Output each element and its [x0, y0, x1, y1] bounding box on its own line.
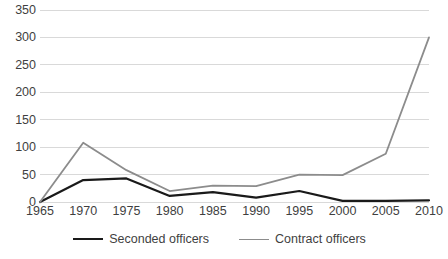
- chart-legend: Seconded officersContract officers: [0, 232, 439, 246]
- x-axis-tick-label: 2000: [321, 204, 365, 218]
- x-axis-tick-label: 1995: [277, 204, 321, 218]
- series-line-contract-officers: [40, 37, 429, 202]
- x-axis-tick-label: 1975: [104, 204, 148, 218]
- legend-line-swatch: [239, 239, 269, 240]
- x-axis-tick-label: 1985: [191, 204, 235, 218]
- legend-item-seconded-officers[interactable]: Seconded officers: [73, 232, 209, 246]
- y-axis-tick-label: 300: [2, 31, 36, 43]
- y-axis: 050100150200250300350: [0, 10, 36, 202]
- legend-line-swatch: [73, 238, 103, 240]
- y-axis-tick-label: 350: [2, 4, 36, 16]
- y-axis-tick-label: 50: [2, 169, 36, 181]
- plot-area: [40, 10, 429, 202]
- x-axis: 1965197019751980198519901995200020052010: [40, 204, 429, 222]
- y-axis-tick-label: 250: [2, 59, 36, 71]
- legend-label: Contract officers: [275, 232, 366, 246]
- x-axis-tick-label: 1980: [148, 204, 192, 218]
- series-line-seconded-officers: [40, 178, 429, 202]
- x-axis-tick-label: 1965: [18, 204, 62, 218]
- series-lines: [40, 10, 429, 202]
- legend-item-contract-officers[interactable]: Contract officers: [239, 232, 366, 246]
- x-axis-tick-label: 2005: [364, 204, 408, 218]
- y-axis-tick-label: 200: [2, 86, 36, 98]
- x-axis-tick-label: 1970: [61, 204, 105, 218]
- x-axis-tick-label: 1990: [234, 204, 278, 218]
- y-axis-tick-label: 100: [2, 141, 36, 153]
- x-axis-tick-label: 2010: [407, 204, 448, 218]
- y-axis-tick-label: 150: [2, 114, 36, 126]
- legend-label: Seconded officers: [109, 232, 209, 246]
